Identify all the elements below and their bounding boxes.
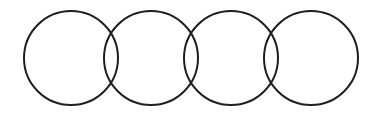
diagram-canvas bbox=[0, 0, 385, 120]
overlapping-circles-diagram bbox=[0, 0, 385, 120]
circles-group bbox=[24, 11, 358, 105]
